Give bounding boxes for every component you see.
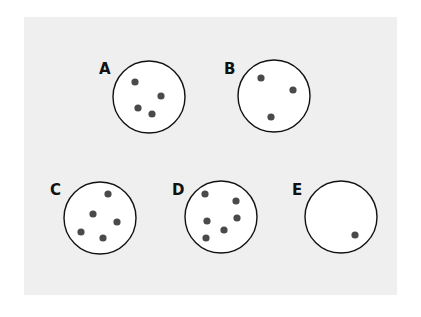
- container-e: [305, 181, 377, 253]
- container-circle: [238, 60, 310, 132]
- particle-dot: [351, 231, 358, 238]
- container-circle: [113, 61, 185, 133]
- container-circle: [185, 181, 257, 253]
- particle-dot: [134, 104, 141, 111]
- particle-dot: [233, 214, 240, 221]
- container-a: [113, 61, 185, 133]
- particle-dot: [232, 197, 239, 204]
- particle-dot: [289, 86, 296, 93]
- container-label-a: A: [99, 62, 111, 77]
- particle-dot: [113, 218, 120, 225]
- particle-dot: [148, 110, 155, 117]
- particle-dot: [201, 190, 208, 197]
- diagram-canvas: [0, 0, 421, 317]
- container-label-e: E: [292, 183, 302, 198]
- particle-dot: [99, 234, 106, 241]
- particle-dot: [131, 78, 138, 85]
- particle-dot: [267, 113, 274, 120]
- particle-dot: [202, 234, 209, 241]
- particle-dot: [157, 92, 164, 99]
- particle-dot: [77, 228, 84, 235]
- particle-dot: [89, 210, 96, 217]
- container-label-d: D: [172, 183, 184, 198]
- particle-dot: [104, 190, 111, 197]
- container-b: [238, 60, 310, 132]
- particle-dot: [257, 74, 264, 81]
- container-c: [64, 182, 136, 254]
- particle-dot: [220, 226, 227, 233]
- container-label-c: C: [50, 183, 61, 198]
- container-circle: [305, 181, 377, 253]
- container-label-b: B: [224, 62, 235, 77]
- container-d: [185, 181, 257, 253]
- particle-dot: [203, 217, 210, 224]
- container-circle: [64, 182, 136, 254]
